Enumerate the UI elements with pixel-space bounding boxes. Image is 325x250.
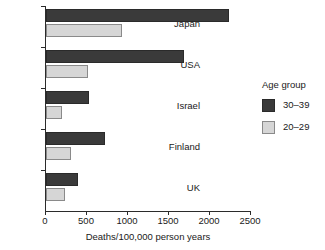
bar[interactable] xyxy=(46,132,105,145)
bar-group: Japan xyxy=(45,6,250,47)
category-label: UK xyxy=(130,183,200,193)
category-label: Israel xyxy=(130,101,200,111)
bar[interactable] xyxy=(46,188,65,201)
x-axis-tick-label: 0 xyxy=(23,216,67,226)
legend-label-20-29: 20–29 xyxy=(283,122,309,132)
legend-swatch-20-29 xyxy=(262,121,275,134)
bar[interactable] xyxy=(46,9,229,22)
bar[interactable] xyxy=(46,24,122,37)
category-label: Finland xyxy=(130,142,200,152)
x-axis-line xyxy=(45,211,251,212)
bar-group: UK xyxy=(45,170,250,211)
legend-item-20-29[interactable]: 20–29 xyxy=(262,121,324,134)
x-axis-tick-label: 1500 xyxy=(146,216,190,226)
bar[interactable] xyxy=(46,173,78,186)
legend-label-30-39: 30–39 xyxy=(283,100,309,110)
bar-chart: JapanUSAIsraelFinlandUK 0500100015002000… xyxy=(0,0,325,250)
x-axis-tick-label: 1000 xyxy=(105,216,149,226)
bar[interactable] xyxy=(46,91,89,104)
x-axis-title: Deaths/100,000 person years xyxy=(45,232,251,242)
bar-group: Israel xyxy=(45,88,250,129)
bar-group: USA xyxy=(45,47,250,88)
y-axis-tick xyxy=(41,129,45,130)
plot-area: JapanUSAIsraelFinlandUK xyxy=(45,6,250,211)
legend: Age group 30–39 20–29 xyxy=(262,80,324,143)
x-axis-tick-label: 2000 xyxy=(187,216,231,226)
bar-group: Finland xyxy=(45,129,250,170)
legend-item-30-39[interactable]: 30–39 xyxy=(262,99,324,112)
y-axis-tick xyxy=(41,88,45,89)
legend-swatch-30-39 xyxy=(262,99,275,112)
bar[interactable] xyxy=(46,65,88,78)
y-axis-tick xyxy=(41,47,45,48)
bar[interactable] xyxy=(46,106,62,119)
legend-title: Age group xyxy=(262,80,324,90)
y-axis-tick xyxy=(41,170,45,171)
x-axis-tick-label: 500 xyxy=(64,216,108,226)
x-axis-tick-label: 2500 xyxy=(228,216,272,226)
bar[interactable] xyxy=(46,147,71,160)
bar[interactable] xyxy=(46,50,184,63)
y-axis-tick xyxy=(41,6,45,7)
